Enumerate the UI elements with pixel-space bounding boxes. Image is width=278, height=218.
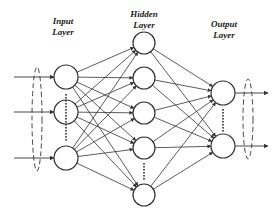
ellipsis-dot (143, 163, 145, 165)
connection-line (155, 80, 211, 91)
input-node (54, 65, 78, 89)
hidden-layer-label: Hidden (129, 9, 158, 19)
hidden-node (133, 184, 155, 206)
output-layer-label: Layer (212, 30, 235, 40)
ellipsis-dot (222, 127, 224, 129)
connection-line (153, 49, 213, 87)
ellipsis-dot (65, 94, 67, 96)
ellipsis-dot (143, 175, 145, 177)
connection-line (76, 118, 134, 152)
ellipsis-dot (65, 133, 67, 135)
connection-line (152, 85, 214, 138)
hidden-node (133, 137, 155, 159)
hidden-node (133, 102, 155, 124)
ellipsis-dot (65, 97, 67, 99)
ellipsis-dot (222, 124, 224, 126)
ellipsis-dot (222, 118, 224, 120)
ellipsis-dot (65, 115, 67, 117)
input-layer-label: Layer (51, 27, 74, 37)
ellipsis-dot (65, 124, 67, 126)
output-layer-label: Output (211, 19, 238, 29)
ellipsis-dot (222, 112, 224, 114)
input-node (54, 146, 78, 170)
ellipsis-dot (222, 130, 224, 132)
output-dashed-ellipse (243, 79, 253, 159)
ellipsis-dot (65, 118, 67, 120)
ellipsis-dot (65, 106, 67, 108)
input-layer-label: Input (52, 16, 74, 26)
output-node (211, 134, 235, 158)
connection-line (151, 52, 216, 137)
ellipsis-dot (65, 127, 67, 129)
ellipsis-dot (65, 136, 67, 138)
ellipsis-dot (143, 169, 145, 171)
ellipsis-dot (222, 121, 224, 123)
ellipsis-dot (65, 100, 67, 102)
ellipsis-dot (222, 115, 224, 117)
ellipsis-dot (65, 121, 67, 123)
neural-network-diagram: Input Layer Hidden Layer Output Layer (0, 0, 278, 218)
ellipsis-dot (143, 172, 145, 174)
ellipsis-dot (65, 112, 67, 114)
ellipsis-dot (65, 139, 67, 141)
connection-line (155, 96, 212, 110)
input-dashed-ellipse (32, 67, 42, 171)
connection-line (73, 87, 138, 186)
hidden-node (133, 32, 155, 54)
connection-line (155, 146, 211, 147)
connection-line (78, 149, 133, 156)
ellipsis-dot (65, 109, 67, 111)
connection-line (78, 112, 133, 113)
ellipsis-dot (143, 166, 145, 168)
hidden-layer-label: Layer (132, 20, 155, 30)
ellipsis-dot (222, 109, 224, 111)
hidden-node (133, 67, 155, 89)
connection-line (151, 102, 216, 186)
ellipsis-dot (65, 103, 67, 105)
ellipsis-dot (143, 178, 145, 180)
ellipsis-dot (65, 130, 67, 132)
output-node (211, 81, 235, 105)
connection-line (77, 117, 134, 143)
